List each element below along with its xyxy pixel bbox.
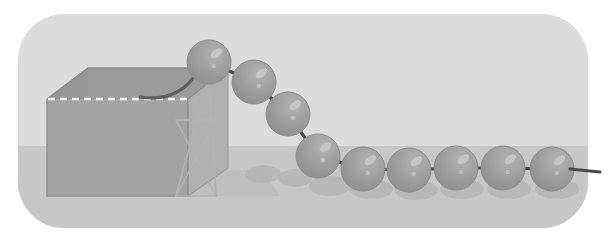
ball-6-body [387,148,431,192]
ball-7 [434,146,478,190]
ball-2-spot [257,84,261,88]
ball-3-spot [291,116,295,120]
ball-3 [266,92,310,136]
box-front-face [47,99,188,196]
ball-8-spot [506,170,510,174]
ball-5-spot [366,171,370,175]
ball-6-spot [412,172,416,176]
ball-7-body [434,146,478,190]
ball-3-body [266,92,310,136]
ball-shadow-1 [245,165,281,183]
open-top-box [47,68,228,196]
scene-svg [0,0,612,244]
ball-5 [341,147,385,191]
ball-1 [187,40,231,84]
ball-4-spot [321,158,325,162]
ball-5-body [341,147,385,191]
ball-1-body [187,40,231,84]
ball-4 [296,134,340,178]
ball-8-body [481,146,525,190]
ball-1-spot [212,64,216,68]
ball-9-spot [555,171,559,175]
ball-6 [387,148,431,192]
ball-8 [481,146,525,190]
ball-7-spot [459,170,463,174]
ball-2 [232,60,276,104]
ball-2-body [232,60,276,104]
ball-4-body [296,134,340,178]
illustration-canvas [0,0,612,244]
ball-9-body [530,147,574,191]
ball-9 [530,147,574,191]
